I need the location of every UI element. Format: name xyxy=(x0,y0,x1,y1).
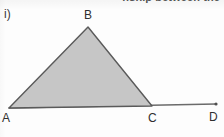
vertex-label-c: C xyxy=(148,112,157,124)
vertex-label-a: A xyxy=(2,112,10,124)
scanned-page: nship between the i) A B C D xyxy=(0,0,224,137)
geometry-figure xyxy=(0,0,224,137)
triangle-abc-shape xyxy=(9,27,152,108)
ray-endpoint-marker-d xyxy=(214,102,217,105)
vertex-label-b: B xyxy=(84,9,92,21)
vertex-label-d: D xyxy=(209,111,218,123)
